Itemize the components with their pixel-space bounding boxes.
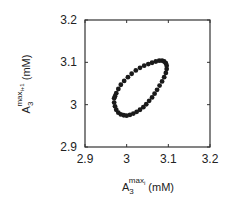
y-tick-label: 3	[70, 98, 77, 112]
data-point	[160, 79, 165, 84]
y-tick-labels: 2.933.13.2	[60, 13, 77, 154]
data-point	[133, 68, 138, 73]
data-point	[129, 71, 134, 76]
x-tick-label: 3.2	[202, 152, 219, 166]
x-label-sub: 3	[129, 187, 134, 196]
data-point	[116, 87, 121, 92]
y-tick-label: 3.1	[60, 55, 77, 69]
x-label-unit: (mM)	[145, 181, 174, 193]
data-point	[118, 82, 123, 87]
data-point	[155, 87, 160, 92]
data-point	[142, 63, 147, 68]
data-point	[122, 79, 127, 84]
x-tick-label: 3	[123, 152, 130, 166]
x-tick-label: 3.1	[160, 152, 177, 166]
x-tick-label: 2.9	[77, 152, 94, 166]
y-axis-label-group: A3maxi+1 (mM)	[15, 55, 35, 114]
x-tick-labels: 2.933.13.2	[77, 152, 219, 166]
x-axis-label: A3maxi (mM)	[122, 176, 174, 196]
return-map-chart: 2.933.13.2 2.933.13.2 A3maxi (mM) A3maxi…	[0, 0, 242, 210]
data-point	[146, 62, 151, 67]
data-point	[126, 75, 131, 80]
y-axis-label: A3maxi+1 (mM)	[15, 55, 35, 114]
data-point	[157, 83, 162, 88]
plot-frame	[85, 20, 210, 147]
data-point	[138, 65, 143, 70]
data-point	[162, 75, 167, 80]
y-label-sub: 3	[26, 101, 35, 106]
y-label-sup: max	[15, 91, 24, 106]
x-label-sup: max	[129, 176, 144, 185]
y-tick-label: 2.9	[60, 140, 77, 154]
data-point	[113, 94, 118, 99]
y-label-unit: (mM)	[20, 55, 32, 84]
y-tick-label: 3.2	[60, 13, 77, 27]
